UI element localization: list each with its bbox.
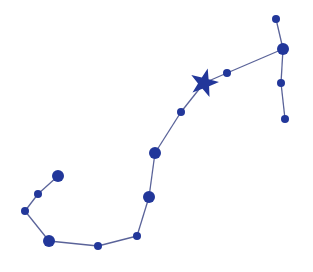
constellation-line: [227, 49, 283, 73]
star-dot-icon: [34, 190, 42, 198]
constellation-line: [98, 236, 137, 246]
star-dot-icon: [277, 43, 289, 55]
star-dot-icon: [52, 170, 64, 182]
star-dot-icon: [143, 191, 155, 203]
constellation-lines: [25, 19, 285, 246]
star-dot-icon: [149, 147, 161, 159]
star-dot-icon: [94, 242, 102, 250]
star-dot-icon: [21, 207, 29, 215]
constellation-line: [49, 241, 98, 246]
constellation-stars: [21, 15, 289, 250]
constellation-line: [137, 197, 149, 236]
star-dot-icon: [177, 108, 185, 116]
star-dot-icon: [133, 232, 141, 240]
constellation-diagram: [0, 0, 313, 272]
constellation-line: [149, 153, 155, 197]
constellation-line: [155, 112, 181, 153]
brightest-star: [191, 69, 219, 97]
star-dot-icon: [223, 69, 231, 77]
star-dot-icon: [272, 15, 280, 23]
star-icon: [191, 69, 219, 97]
star-dot-icon: [281, 115, 289, 123]
star-dot-icon: [43, 235, 55, 247]
constellation-line: [281, 83, 285, 119]
star-dot-icon: [277, 79, 285, 87]
